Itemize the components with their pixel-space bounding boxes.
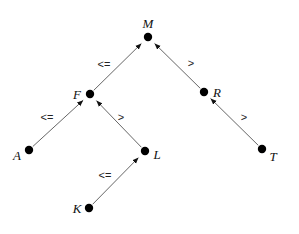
node-r [200, 88, 208, 96]
node-a [25, 146, 33, 154]
node-label-r: R [212, 85, 221, 100]
edge-label-l-f: > [118, 111, 124, 123]
node-l [141, 147, 149, 155]
edge-label-f-m: <= [98, 58, 111, 70]
edge-l-f [96, 101, 141, 148]
tree-diagram: <=><=>><= MFRALTK [0, 0, 299, 234]
edge-label-t-r: > [241, 111, 247, 123]
node-k [85, 204, 93, 212]
node-label-t: T [269, 149, 277, 164]
node-label-m: M [142, 16, 155, 31]
node-label-a: A [12, 148, 21, 163]
node-label-l: L [152, 147, 160, 162]
edge-label-k-l: <= [99, 169, 112, 181]
edge-a-f [33, 100, 83, 146]
node-f [86, 90, 94, 98]
node-label-k: K [72, 201, 83, 216]
node-t [258, 145, 266, 153]
edge-label-r-m: > [188, 57, 194, 69]
edge-label-a-f: <= [41, 111, 54, 123]
node-label-f: F [72, 87, 82, 102]
node-m [144, 33, 152, 41]
edge-t-r [211, 98, 259, 145]
edges: <=><=>><= [33, 43, 258, 204]
